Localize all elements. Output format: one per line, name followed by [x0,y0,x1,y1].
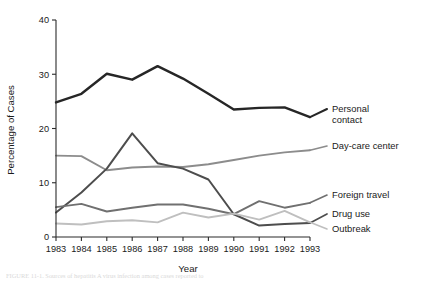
legend-label-drug-use: Drug use [332,208,370,219]
x-tick-label: 1990 [224,244,244,254]
x-tick-label: 1991 [249,244,269,254]
series-line-day-care-center [56,150,310,170]
x-tick-label: 1993 [300,244,320,254]
legend-layer: PersonalcontactDay-care centerForeign tr… [310,103,399,234]
x-tick-label: 1989 [198,244,218,254]
y-tick-label: 40 [39,15,49,25]
series-line-personal-contact [56,66,310,117]
x-tick-label: 1984 [71,244,91,254]
legend-connector-drug-use [310,214,327,223]
x-tick-label: 1992 [274,244,294,254]
x-tick-label: 1983 [46,244,66,254]
figure-container: 0102030401983198419851986198719881989199… [0,0,421,287]
legend-label-personal-contact: Personal [332,103,369,114]
x-tick-label: 1987 [147,244,167,254]
y-tick-label: 0 [44,232,49,242]
y-tick-label: 10 [39,178,49,188]
y-axis-title: Percentage of Cases [5,85,16,175]
series-line-outbreak [56,211,310,225]
x-tick-label: 1988 [173,244,193,254]
y-tick-label: 30 [39,70,49,80]
x-tick-label: 1986 [122,244,142,254]
legend-label-personal-contact: contact [332,114,363,125]
legend-label-foreign-travel: Foreign travel [332,189,389,200]
tick-label-layer: 0102030401983198419851986198719881989199… [39,15,320,254]
figure-caption: FIGURE 11-1. Sources of hepatitis A viru… [6,272,415,279]
legend-connector-day-care-center [310,146,327,150]
axes-layer [52,20,310,241]
legend-connector-foreign-travel [310,195,327,203]
series-layer [56,66,310,226]
legend-connector-personal-contact [310,109,327,117]
x-tick-label: 1985 [97,244,117,254]
y-tick-label: 20 [39,124,49,134]
line-chart: 0102030401983198419851986198719881989199… [0,0,421,287]
legend-label-outbreak: Outbreak [332,223,371,234]
legend-connector-outbreak [310,222,327,229]
legend-label-day-care-center: Day-care center [332,140,399,151]
